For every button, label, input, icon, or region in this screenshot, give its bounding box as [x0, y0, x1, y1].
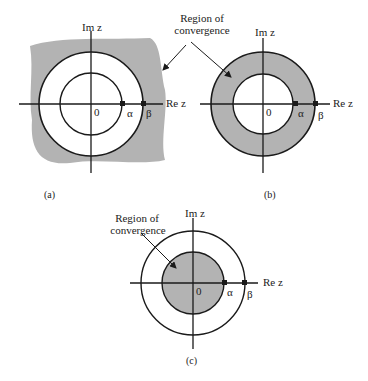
roc-label-top-line2: convergence — [164, 25, 240, 36]
roc-label-c-line2: convergence — [100, 225, 176, 236]
caption-c: (c) — [186, 355, 197, 366]
im-axis-label-a: Im z — [82, 22, 102, 33]
re-axis-label-c: Re z — [263, 277, 283, 288]
roc-diagram — [0, 0, 368, 381]
roc-label-c-line1: Region of — [104, 213, 170, 224]
alpha-label-a: α — [127, 108, 133, 119]
beta-label-b: β — [318, 110, 324, 121]
origin-label-c: 0 — [196, 286, 202, 297]
panel-b — [200, 38, 330, 173]
origin-label-b: 0 — [266, 107, 272, 118]
im-axis-label-c: Im z — [185, 208, 205, 219]
beta-label-a: β — [146, 108, 152, 119]
roc-label-top-line1: Region of — [169, 13, 235, 24]
origin-label-a: 0 — [94, 107, 100, 118]
pole-beta-a — [141, 101, 146, 106]
re-axis-label-b: Re z — [333, 98, 353, 109]
panel-a — [19, 31, 166, 173]
caption-a: (a) — [44, 189, 55, 200]
pole-alpha-a — [120, 101, 125, 106]
arrow-to-a — [163, 45, 186, 70]
panel-c — [130, 218, 258, 349]
arrow-to-b — [191, 42, 231, 77]
beta-label-c: β — [247, 289, 253, 300]
im-axis-label-b: Im z — [255, 27, 275, 38]
alpha-label-b: α — [298, 108, 304, 119]
re-axis-label-a: Re z — [166, 98, 186, 109]
alpha-label-c: α — [227, 287, 233, 298]
caption-b: (b) — [264, 189, 276, 200]
